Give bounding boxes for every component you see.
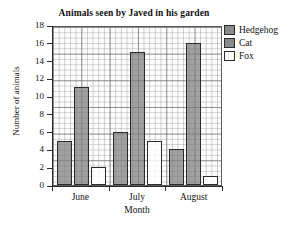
bar-group-june — [53, 27, 109, 185]
x-tick-label-august: August — [165, 192, 222, 203]
legend-swatch-fox — [224, 51, 235, 61]
bar-chart: Animals seen by Javed in his garden Numb… — [0, 0, 304, 226]
y-tick-label: 14 — [22, 57, 44, 66]
bar-hedgehog-july — [113, 132, 128, 185]
x-tick-label-july: July — [109, 192, 166, 203]
x-axis-line — [52, 186, 223, 187]
bar-hedgehog-august — [169, 149, 184, 185]
chart-legend: HedgehogCatFox — [224, 25, 278, 61]
x-tick-mark — [222, 187, 223, 191]
bar-cat-june — [74, 87, 89, 185]
y-tick-label: 2 — [22, 163, 44, 172]
x-axis-title: Month — [52, 205, 222, 215]
legend-label-cat: Cat — [239, 38, 252, 48]
x-tick-mark — [109, 187, 110, 191]
legend-swatch-cat — [224, 38, 235, 48]
bar-cat-july — [130, 52, 145, 185]
bar-fox-july — [147, 141, 162, 185]
legend-item-hedgehog[interactable]: Hedgehog — [224, 25, 278, 35]
y-axis-line — [52, 26, 53, 187]
bar-fox-august — [203, 176, 218, 185]
y-tick-label: 4 — [22, 145, 44, 154]
legend-label-fox: Fox — [239, 51, 254, 61]
bar-fox-june — [91, 167, 106, 185]
y-tick-label: 18 — [22, 21, 44, 30]
bar-hedgehog-june — [57, 141, 72, 185]
bar-group-august — [165, 27, 221, 185]
legend-item-cat[interactable]: Cat — [224, 38, 278, 48]
y-axis-title: Number of animals — [11, 41, 21, 161]
bars-layer — [53, 27, 221, 185]
bar-group-july — [109, 27, 165, 185]
x-tick-mark — [52, 187, 53, 191]
legend-label-hedgehog: Hedgehog — [239, 25, 278, 35]
legend-swatch-hedgehog — [224, 25, 235, 35]
bar-cat-august — [186, 43, 201, 185]
chart-title: Animals seen by Javed in his garden — [46, 8, 222, 18]
y-tick-label: 6 — [22, 128, 44, 137]
x-axis-labels: JuneJulyAugust — [52, 192, 222, 203]
legend-item-fox[interactable]: Fox — [224, 51, 278, 61]
x-tick-label-june: June — [52, 192, 109, 203]
y-tick-label: 12 — [22, 74, 44, 83]
y-tick-label: 10 — [22, 92, 44, 101]
y-tick-label: 0 — [22, 181, 44, 190]
plot-area — [52, 26, 222, 186]
y-tick-label: 16 — [22, 39, 44, 48]
x-tick-mark — [165, 187, 166, 191]
y-tick-label: 8 — [22, 110, 44, 119]
